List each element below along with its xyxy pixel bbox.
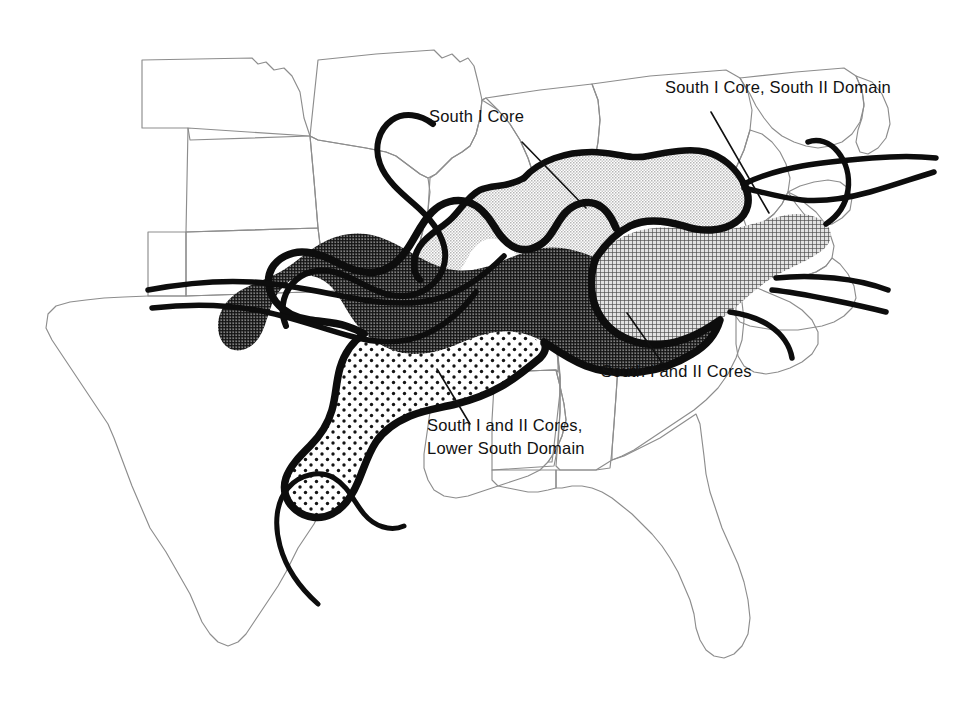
- map-figure: South I Core South I Core, South II Doma…: [0, 0, 956, 703]
- boundary-line-east-lower: [776, 277, 888, 291]
- boundary-line-east-upper-b: [744, 172, 934, 201]
- label-south-i-and-ii-cores: South I and II Cores: [601, 361, 752, 381]
- label-lower-south-domain-line1: South I and II Cores,: [427, 415, 583, 435]
- label-south-i-core-south-ii-domain: South I Core, South II Domain: [665, 77, 891, 97]
- label-lower-south-domain-line2: Lower South Domain: [427, 438, 585, 458]
- boundary-arc-carolina: [730, 312, 792, 358]
- label-south-i-core: South I Core: [429, 106, 524, 126]
